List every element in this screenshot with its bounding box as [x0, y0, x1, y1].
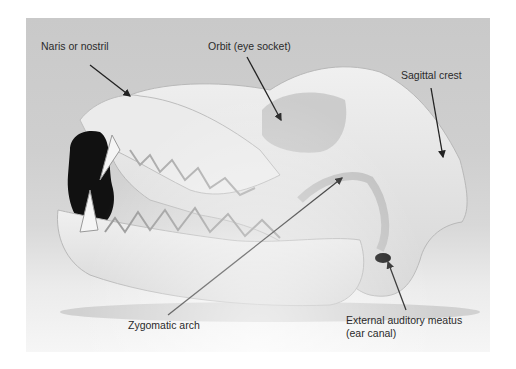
ear-canal-shape [375, 253, 391, 263]
label-auditory-line2: (ear canal) [346, 327, 462, 340]
label-auditory-line1: External auditory meatus [346, 314, 462, 327]
label-external-auditory-meatus: External auditory meatus (ear canal) [346, 314, 462, 340]
label-naris: Naris or nostril [41, 40, 109, 53]
label-zygomatic-arch: Zygomatic arch [128, 319, 200, 332]
orbit-shape [262, 93, 346, 153]
label-orbit: Orbit (eye socket) [208, 40, 291, 53]
naris-arrow [90, 65, 130, 96]
label-sagittal-crest: Sagittal crest [401, 69, 462, 82]
